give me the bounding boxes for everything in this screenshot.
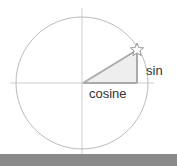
bottom-bar — [0, 154, 177, 166]
unit-circle-diagram — [0, 0, 177, 166]
cosine-label: cosine — [89, 86, 127, 101]
sin-label: sin — [146, 63, 163, 78]
